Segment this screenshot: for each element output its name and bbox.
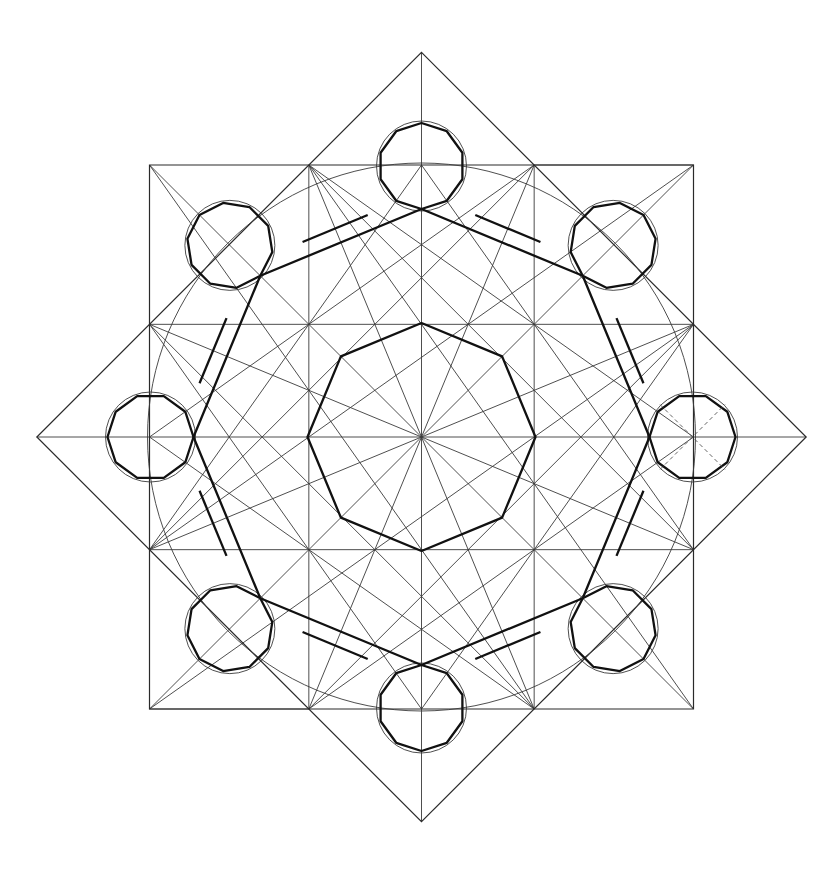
band-outer-segment <box>475 215 540 242</box>
diagram-canvas <box>0 0 837 875</box>
corner-decagon <box>381 123 463 209</box>
geometric-construction-figure <box>0 0 837 875</box>
band-outer-segment <box>475 632 540 659</box>
corner-decagon <box>571 203 656 288</box>
band-outer-segment <box>303 632 368 659</box>
corner-decagon <box>381 665 463 751</box>
band-outer-segment <box>616 491 643 556</box>
corner-decagon <box>187 586 272 671</box>
midpoint-construction-line <box>150 324 422 709</box>
corner-decagon <box>571 586 656 671</box>
midpoint-construction-line <box>422 165 694 550</box>
midpoint-construction-line <box>150 165 535 437</box>
band-outer-segment <box>616 318 643 383</box>
corner-decagon <box>187 203 272 288</box>
band-outer-segment <box>200 318 227 383</box>
band-outer-segment <box>303 215 368 242</box>
band-outer-segment <box>200 491 227 556</box>
corner-decagon <box>108 396 194 478</box>
midpoint-construction-line <box>309 437 694 709</box>
